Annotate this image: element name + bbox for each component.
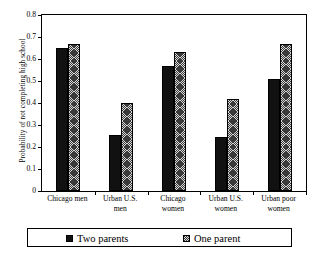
x-axis-category-label-line: Urban poor <box>247 194 311 204</box>
legend-item-one-parent: One parent <box>183 232 240 245</box>
y-axis-tick-mark <box>38 103 42 104</box>
y-axis-tick-mark <box>38 191 42 192</box>
y-axis-tick-mark <box>38 169 42 170</box>
bar-two-parents <box>56 48 68 191</box>
plot-inner: 0.80.70.60.50.40.30.20.10 <box>42 15 306 191</box>
y-axis-tick-mark <box>38 59 42 60</box>
legend-label-two-parents: Two parents <box>77 233 128 245</box>
y-axis-tick-label: 0.1 <box>2 165 36 173</box>
y-axis-tick-label: 0.8 <box>2 11 36 19</box>
y-axis-tick-label: 0.2 <box>2 143 36 151</box>
y-axis-tick-mark <box>38 37 42 38</box>
bar-chart-figure: Probability of not completing high schoo… <box>0 0 319 257</box>
y-axis-tick-label: 0.3 <box>2 121 36 129</box>
y-axis-tick-label: 0.5 <box>2 77 36 85</box>
legend-swatch-two-parents <box>66 235 73 242</box>
bar-one-parent <box>121 103 133 191</box>
y-axis-tick-mark <box>38 81 42 82</box>
y-axis-tick-label: 0 <box>2 187 36 195</box>
bar-one-parent <box>68 44 80 191</box>
bar-two-parents <box>109 135 121 191</box>
legend-swatch-one-parent <box>183 235 190 242</box>
bar-one-parent <box>174 52 186 191</box>
y-axis-tick-label: 0.7 <box>2 33 36 41</box>
legend-item-two-parents: Two parents <box>66 232 128 245</box>
bar-two-parents <box>268 79 280 191</box>
x-axis-category-label: Urban poorwomen <box>247 194 311 213</box>
bar-one-parent <box>227 99 239 191</box>
bar-one-parent <box>280 44 292 191</box>
plot-area: 0.80.70.60.50.40.30.20.10 <box>41 14 307 192</box>
y-axis-tick-label: 0.4 <box>2 99 36 107</box>
y-axis-tick-mark <box>38 147 42 148</box>
chart-legend: Two parents One parent <box>27 228 292 247</box>
bar-two-parents <box>162 66 174 191</box>
bar-two-parents <box>215 137 227 191</box>
y-axis-tick-label: 0.6 <box>2 55 36 63</box>
legend-label-one-parent: One parent <box>194 233 240 245</box>
y-axis-tick-mark <box>38 15 42 16</box>
y-axis-tick-mark <box>38 125 42 126</box>
x-axis-category-label-line: women <box>247 204 311 214</box>
